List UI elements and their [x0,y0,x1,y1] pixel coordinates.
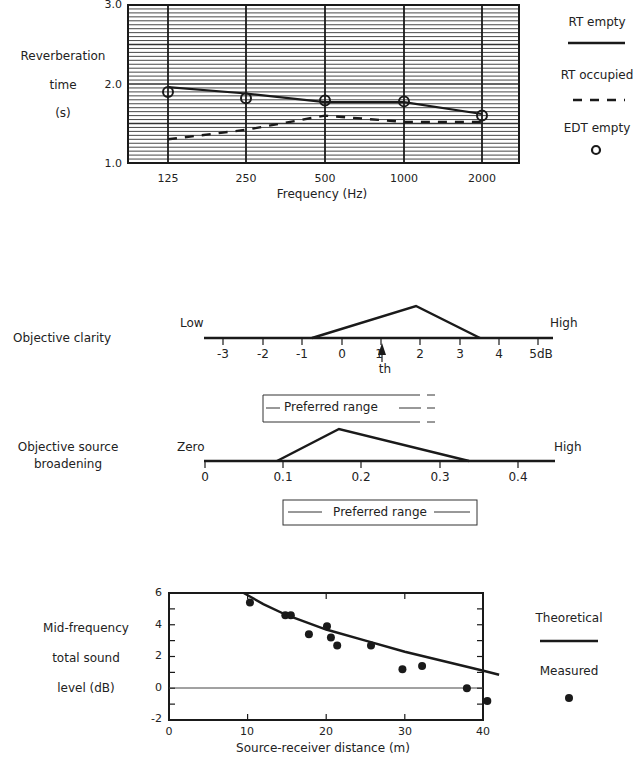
legend-measured-dot [565,694,573,702]
level-xtick: 0 [166,725,173,738]
level-ylabel-line1: Mid-frequency [43,621,129,635]
level-ylabel-line3: level (dB) [57,681,115,695]
level-ytick: 4 [155,618,162,631]
level-ytick: 6 [155,586,162,599]
level-xtick: 30 [398,725,412,738]
level-xtick: 40 [476,725,490,738]
level-xtick: 20 [319,725,333,738]
level-xlabel: Source-receiver distance (m) [236,741,410,755]
level-ytick: 0 [155,681,162,694]
legend-theoretical: Theoretical [535,611,602,625]
level-ytick: -2 [151,712,162,725]
level-ylabel-line2: total sound [52,651,120,665]
level-xtick: 10 [240,725,254,738]
legend-measured: Measured [540,664,599,678]
level-ytick: 2 [155,649,162,662]
